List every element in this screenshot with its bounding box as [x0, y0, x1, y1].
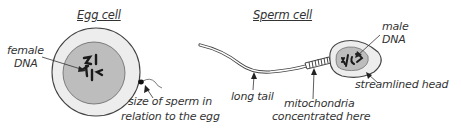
male-dna-label-line1: male [382, 20, 408, 33]
egg-cell-title: Egg cell [77, 9, 121, 22]
sperm-cell-title: Sperm cell [253, 9, 312, 22]
female-dna-label-line1: female [7, 44, 44, 57]
sperm-size-label-line2: relation to the egg [121, 110, 220, 123]
mitochondria-label-line1: mitochondria [284, 97, 354, 110]
streamlined-head-label: streamlined head [355, 78, 448, 91]
mitochondria-label-line2: concentrated here [272, 110, 370, 123]
female-dna-label-line2: DNA [14, 57, 38, 70]
long-tail-label: long tail [231, 90, 274, 103]
tiny-sperm-drawing [138, 79, 162, 88]
male-dna-label-line2: DNA [382, 33, 406, 46]
egg-sperm-diagram: Egg cell female DNA size of sperm in rel… [0, 0, 461, 135]
sperm-size-label-line1: size of sperm in [128, 95, 212, 108]
mitochondria-midpiece [305, 57, 331, 69]
